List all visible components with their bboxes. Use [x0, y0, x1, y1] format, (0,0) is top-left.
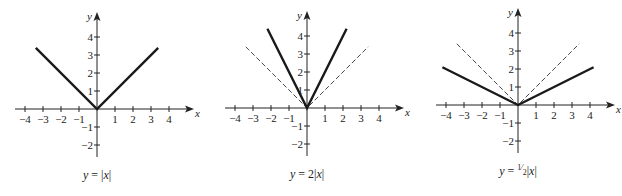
caption-text: y = |x|: [82, 168, 111, 182]
y-tick-label: 4: [298, 30, 304, 42]
caption: y = |x|: [82, 168, 111, 182]
three-abs-value-graphs: xy−4−3−2−11234−2−11234y = |x|xy−4−3−2−11…: [0, 0, 622, 196]
x-tick-label: 3: [569, 109, 575, 121]
y-tick-label: −2: [502, 135, 514, 147]
y-tick-label: 1: [88, 85, 94, 97]
graph-3: xy−4−3−2−11234−2−11234y = 1⁄2|x|: [436, 6, 621, 178]
graph-2: xy−4−3−2−11234−2−11234y = 2|x|: [225, 9, 410, 181]
x-tick-label: 2: [340, 112, 346, 124]
x-tick-label: 2: [130, 113, 136, 125]
y-tick-label: 3: [298, 48, 304, 60]
x-tick-label: −4: [229, 112, 241, 124]
x-tick-label: −3: [458, 109, 470, 121]
y-tick-label: 2: [88, 67, 94, 79]
y-tick-label: 2: [509, 63, 515, 75]
x-tick-label: −3: [247, 112, 259, 124]
x-tick-label: 3: [358, 112, 364, 124]
y-tick-label: −2: [291, 138, 303, 150]
x-tick-label: −4: [440, 109, 452, 121]
caption-text: y = 2|x|: [289, 167, 324, 181]
x-tick-label: −2: [476, 109, 488, 121]
y-tick-label: 4: [88, 31, 94, 43]
x-tick-label: 2: [551, 109, 557, 121]
x-axis-label: x: [615, 103, 621, 115]
y-tick-label: 2: [298, 66, 304, 78]
x-tick-label: −3: [37, 113, 49, 125]
x-tick-label: 3: [148, 113, 154, 125]
y-tick-label: 4: [509, 27, 515, 39]
x-tick-label: 1: [533, 109, 539, 121]
x-tick-label: 4: [587, 109, 593, 121]
y-tick-label: 1: [509, 81, 515, 93]
y-axis-label: y: [86, 10, 92, 22]
graph-1: xy−4−3−2−11234−2−11234y = |x|: [15, 10, 200, 182]
x-tick-label: −2: [55, 113, 67, 125]
y-axis-label: y: [296, 9, 302, 21]
y-tick-label: −1: [502, 117, 514, 129]
x-tick-label: −2: [265, 112, 277, 124]
caption-text: y = 1⁄2|x|: [498, 163, 537, 178]
x-tick-label: −4: [19, 113, 31, 125]
caption: y = 1⁄2|x|: [498, 163, 537, 178]
y-tick-label: −2: [81, 139, 93, 151]
figure: xy−4−3−2−11234−2−11234y = |x|xy−4−3−2−11…: [0, 0, 622, 196]
y-tick-label: 3: [88, 49, 94, 61]
x-tick-label: 4: [376, 112, 382, 124]
x-axis-label: x: [194, 107, 200, 119]
caption: y = 2|x|: [289, 167, 324, 181]
y-tick-label: 3: [509, 45, 515, 57]
x-tick-label: 1: [322, 112, 328, 124]
x-tick-label: 4: [166, 113, 172, 125]
x-tick-label: 1: [112, 113, 118, 125]
x-axis-label: x: [404, 106, 410, 118]
y-tick-label: −1: [81, 121, 93, 133]
y-tick-label: −1: [291, 120, 303, 132]
y-axis-label: y: [507, 6, 513, 18]
